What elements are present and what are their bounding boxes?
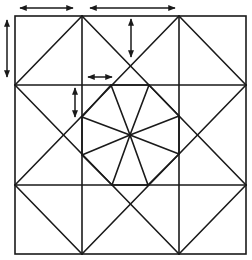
star-spoke-line bbox=[82, 135, 130, 155]
diagonal-line bbox=[179, 16, 246, 85]
diagonal-line bbox=[15, 16, 82, 85]
star-spoke-line bbox=[130, 135, 148, 185]
diagonal-line bbox=[15, 185, 82, 254]
star-spoke-line bbox=[111, 85, 130, 135]
geometric-star-pattern-diagram bbox=[0, 0, 252, 260]
star-spoke-line bbox=[112, 135, 130, 185]
star-spoke-line bbox=[82, 117, 130, 135]
star-spoke-line bbox=[130, 85, 149, 135]
diagonal-line bbox=[179, 185, 246, 254]
star-spoke-line bbox=[130, 116, 179, 135]
star-spoke-line bbox=[130, 135, 179, 154]
